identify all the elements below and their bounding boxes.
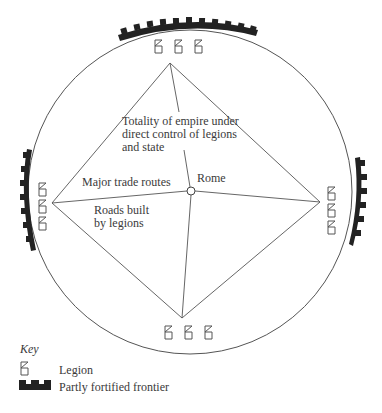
key-title: Key [20,343,39,356]
legion-icon [195,40,202,53]
legion-roads [52,63,320,318]
roads-label-line2: by legions [94,217,144,230]
legion-icon [328,204,335,217]
legion-group-south [165,326,212,339]
key-legion-label: Legion [59,364,93,377]
legion-icon [155,40,162,53]
legion-icon [165,326,172,339]
legion-group-north [155,40,202,53]
key-frontier-label: Partly fortified frontier [59,381,169,394]
empire-label-line3: and state [122,141,164,154]
legion-icon [39,200,46,213]
rome-label: Rome [197,172,226,185]
rome-node [187,187,195,195]
key-legion-icon [21,362,28,375]
legion-icon [185,326,192,339]
legion-icon [328,221,335,234]
trade-routes-label: Major trade routes [82,176,171,189]
legion-icon [328,187,335,200]
empire-diagram [0,0,382,413]
key-fortified-frontier-icon [19,380,51,390]
legion-group-west [39,183,46,230]
legion-icon [39,217,46,230]
legion-icon [39,183,46,196]
legion-group-east [328,187,335,234]
legion-icon [175,40,182,53]
legion-icon [205,326,212,339]
trade-routes [52,63,320,318]
